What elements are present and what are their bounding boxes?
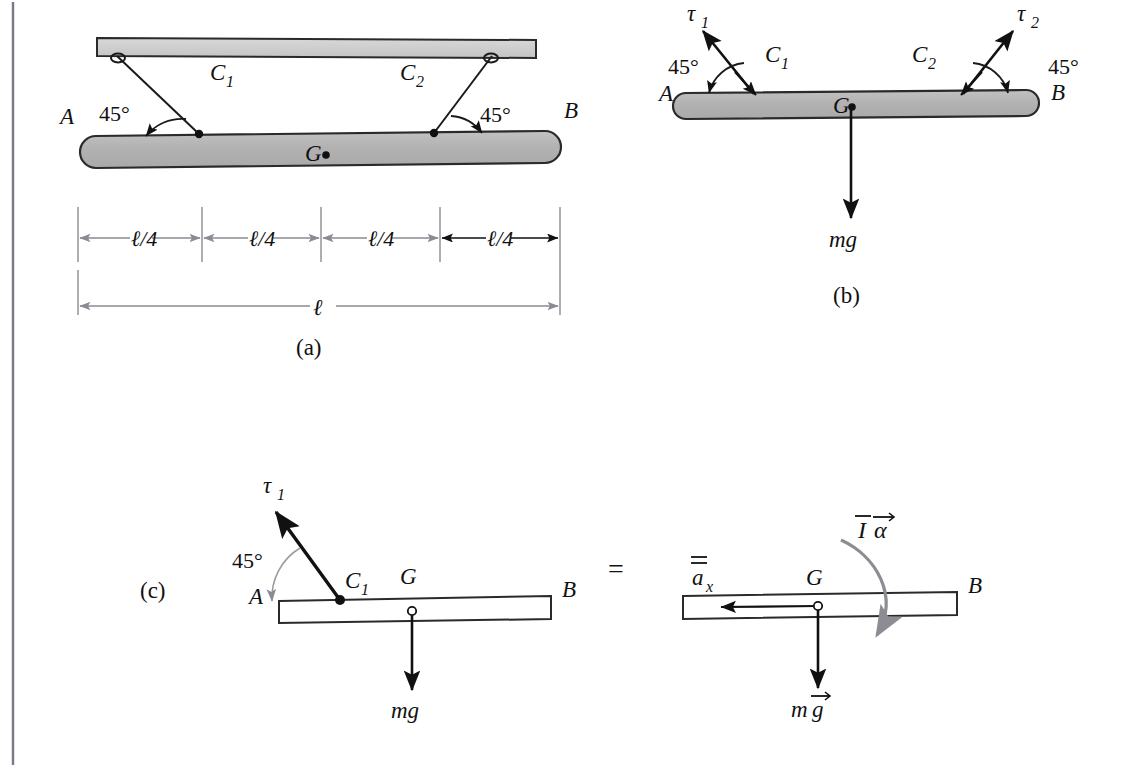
panel-b-angle-left: 45° bbox=[668, 54, 699, 79]
dimension-seg-3: ℓ/4 bbox=[368, 226, 394, 251]
panel-b-label-B: B bbox=[1051, 80, 1065, 105]
panel-c-tension-1-sub: 1 bbox=[277, 486, 285, 503]
panel-c-label-B: B bbox=[562, 577, 576, 602]
panel-a-cable-c2-sub: 2 bbox=[416, 73, 424, 90]
panel-b-tension-1-sub: 1 bbox=[701, 14, 709, 31]
angle-arc-right-b bbox=[973, 63, 1008, 93]
dimension-seg-4: ℓ/4 bbox=[487, 226, 513, 251]
cable-c1-anchor-c bbox=[335, 595, 345, 605]
angle-arc-left-a bbox=[146, 119, 186, 136]
dimension-total-label: ℓ bbox=[313, 295, 323, 320]
center-of-mass-dot-b bbox=[848, 103, 856, 111]
panel-c-caption: (c) bbox=[140, 578, 166, 603]
panel-c-cable-c1-sub: 1 bbox=[361, 581, 369, 598]
kinetic-label-G: G bbox=[806, 565, 823, 590]
panel-b-angle-right: 45° bbox=[1048, 54, 1079, 79]
panel-b-caption: (b) bbox=[833, 283, 860, 308]
kinetic-label-B: B bbox=[968, 573, 982, 598]
panel-b-tension-1: τ bbox=[687, 1, 696, 26]
panel-a-label-B: B bbox=[564, 98, 578, 123]
kinetic-angular-accel-label: α bbox=[874, 517, 887, 543]
panel-b-weight-label: mg bbox=[829, 227, 857, 252]
panel-c-free-body: (c) τ 1 45° A B C 1 G mg bbox=[140, 473, 576, 723]
physics-figure: A B G C 1 C 2 45° 45° bbox=[0, 0, 1143, 775]
panel-a-label-A: A bbox=[58, 104, 75, 129]
cable-c2-anchor-a bbox=[430, 129, 438, 137]
equals-sign: = bbox=[608, 553, 624, 584]
angle-arc-right-a bbox=[451, 116, 482, 133]
panel-c-cable-c1-label: C bbox=[345, 568, 361, 593]
center-of-mass-dot-kinetic bbox=[814, 602, 822, 610]
panel-a-angle-left: 45° bbox=[99, 101, 130, 126]
accel-x-arrow bbox=[721, 606, 817, 607]
center-of-mass-dot-a bbox=[322, 151, 330, 159]
cable-c1-anchor-a bbox=[195, 130, 203, 138]
panel-c-kinetic: a x G B I α m g bbox=[683, 513, 982, 722]
panel-a-cable-c1-sub: 1 bbox=[226, 73, 234, 90]
kinetic-inertia-label: I bbox=[857, 517, 867, 543]
panel-c-label-A: A bbox=[247, 584, 264, 609]
ceiling-slab bbox=[97, 38, 536, 58]
dimension-seg-2: ℓ/4 bbox=[249, 226, 275, 251]
tension-1-arrow-c bbox=[276, 512, 340, 600]
panel-a-cable-c1-label: C bbox=[210, 60, 226, 85]
panel-a-label-G: G bbox=[305, 141, 322, 166]
panel-a-cable-c2-label: C bbox=[400, 60, 416, 85]
kinetic-weight-m: m bbox=[791, 697, 808, 722]
angle-arc-left-b bbox=[709, 63, 744, 93]
panel-b-label-A: A bbox=[657, 81, 674, 106]
panel-c-weight-label: mg bbox=[391, 698, 419, 723]
panel-b-tension-2-sub: 2 bbox=[1031, 14, 1039, 31]
panel-c-tension-1: τ bbox=[263, 473, 272, 498]
panel-b-cable-c1-sub: 1 bbox=[781, 55, 789, 72]
panel-b-cable-c2-sub: 2 bbox=[928, 55, 936, 72]
figure-page: A B G C 1 C 2 45° 45° bbox=[0, 0, 1143, 775]
panel-c-angle: 45° bbox=[232, 548, 263, 573]
panel-b-label-G: G bbox=[833, 93, 850, 118]
panel-b-cable-c1-label: C bbox=[765, 42, 781, 67]
kinetic-accel-x-label: a bbox=[692, 565, 704, 590]
panel-b-cable-c2-label: C bbox=[912, 42, 928, 67]
panel-a: A B G C 1 C 2 45° 45° bbox=[58, 38, 578, 360]
panel-a-angle-right: 45° bbox=[480, 102, 511, 127]
panel-b-tension-2: τ bbox=[1017, 1, 1026, 26]
kinetic-accel-x-sub: x bbox=[705, 578, 713, 595]
angular-accel-curved-arrow bbox=[841, 540, 886, 635]
panel-c-label-G: G bbox=[400, 564, 417, 589]
kinetic-weight-g: g bbox=[812, 697, 824, 722]
panel-b: τ 1 τ 2 C 1 C 2 45° 45° A B G mg (b) bbox=[657, 1, 1079, 308]
center-of-mass-dot-c bbox=[408, 607, 416, 615]
angle-arc-c bbox=[272, 548, 300, 601]
bar-b bbox=[673, 90, 1039, 119]
panel-a-caption: (a) bbox=[296, 335, 322, 360]
dimension-seg-1: ℓ/4 bbox=[131, 226, 157, 251]
